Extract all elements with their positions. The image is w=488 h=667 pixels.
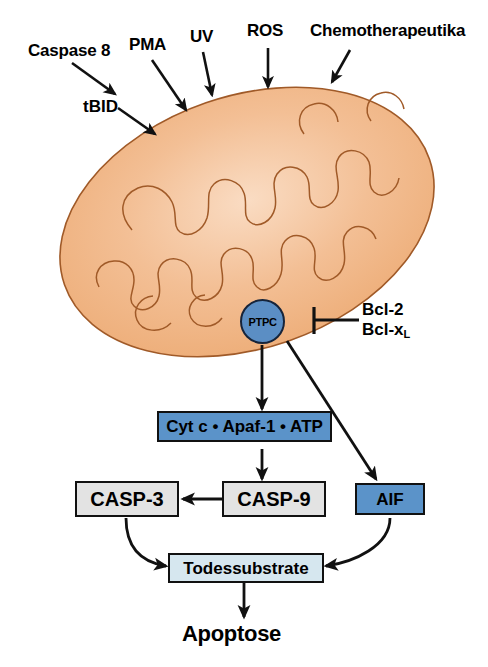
node-box-todessubstrate: Todessubstrate: [168, 553, 324, 583]
intermediate-label-tbid: tBID: [83, 98, 118, 115]
ptpc-label: PTPC: [248, 316, 276, 328]
node-label-aif: AIF: [376, 491, 403, 508]
arrow-ptpc-to-aif: [287, 341, 376, 479]
ptpc-pore: PTPC: [240, 299, 285, 344]
arrow-pma-to-mitochondrion: [152, 60, 186, 110]
node-box-aif: AIF: [355, 483, 425, 515]
arrow-chemo-to-mitochondrion: [332, 50, 350, 82]
stimulus-label-ros: ROS: [247, 22, 283, 39]
node-box-casp9: CASP-9: [222, 481, 326, 517]
node-box-apoptosome: Cyt c • Apaf-1 • ATP: [157, 411, 332, 442]
outcome-label-apoptose: Apoptose: [182, 623, 281, 645]
arrow-tbid-to-mitochondrion: [118, 108, 155, 134]
stimulus-label-chemotherapeutika: Chemotherapeutika: [310, 22, 465, 39]
inhibitor-labels: Bcl-2 Bcl-xL: [362, 300, 410, 340]
arrow-caspase8-to-tbid: [72, 63, 115, 94]
node-label-casp3: CASP-3: [90, 489, 163, 509]
node-box-casp3: CASP-3: [75, 481, 179, 517]
arrow-uv-to-mitochondrion: [203, 52, 212, 95]
inhibitor-label-bclxl-base: Bcl-x: [362, 320, 404, 339]
arrow-casp3-to-todessubstrate: [126, 518, 166, 566]
node-label-todessubstrate: Todessubstrate: [183, 560, 308, 577]
node-label-casp9: CASP-9: [237, 489, 310, 509]
figure-canvas: Caspase 8 PMA UV ROS Chemotherapeutika t…: [0, 0, 488, 667]
inhibitor-label-bcl2: Bcl-2: [362, 300, 410, 320]
stimulus-label-caspase-8: Caspase 8: [28, 42, 110, 59]
node-label-apoptosome: Cyt c • Apaf-1 • ATP: [166, 418, 323, 435]
inhibitor-label-bclxl-subscript: L: [404, 328, 411, 340]
stimulus-label-uv: UV: [190, 28, 213, 45]
arrow-aif-to-todessubstrate: [326, 518, 390, 566]
inhibitor-label-bclxl: Bcl-xL: [362, 320, 410, 340]
stimulus-label-pma: PMA: [129, 36, 166, 53]
mitochondrion-shape: [23, 40, 470, 404]
